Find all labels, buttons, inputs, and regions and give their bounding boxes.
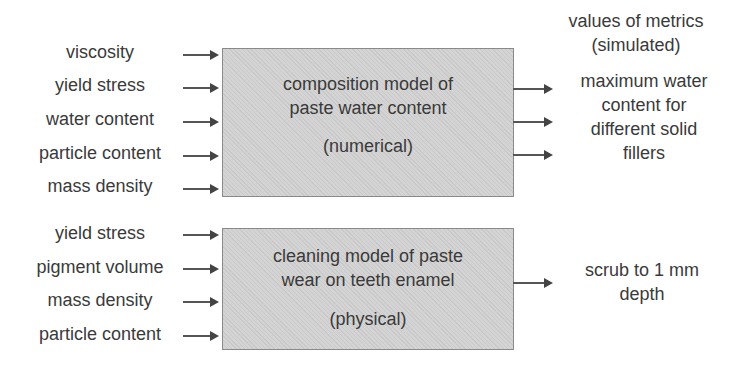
input-arrow-1	[183, 54, 217, 56]
input-label-yield-stress-2: yield stress	[0, 223, 200, 243]
input-label-pigment-volume: pigment volume	[0, 257, 200, 277]
composition-model-box: composition model of paste water content…	[222, 48, 514, 197]
input-arrow-3	[183, 121, 217, 123]
input-label-yield-stress: yield stress	[0, 75, 200, 95]
model2-output-line2: depth	[542, 283, 731, 305]
input-arrow-7	[183, 268, 217, 270]
outputs-header-line1: values of metrics	[536, 10, 731, 32]
model1-type: (numerical)	[223, 135, 513, 158]
input-arrow-2	[183, 87, 217, 89]
model1-output-line3: different solid	[544, 118, 731, 140]
input-label-water-content: water content	[0, 109, 200, 129]
input-label-mass-density: mass density	[0, 176, 200, 196]
model1-title-line1: composition model of	[223, 73, 513, 96]
model2-type: (physical)	[223, 308, 513, 331]
input-arrow-5	[183, 188, 217, 190]
model1-output-line2: content for	[544, 94, 731, 116]
model1-output-line4: fillers	[544, 142, 731, 164]
input-arrow-9	[183, 335, 217, 337]
input-label-viscosity: viscosity	[0, 42, 200, 62]
outputs-header-line2: (simulated)	[536, 34, 731, 56]
model2-title-line2: wear on teeth enamel	[223, 269, 513, 292]
model2-title-line1: cleaning model of paste	[223, 245, 513, 268]
input-arrow-8	[183, 301, 217, 303]
input-label-particle-content-2: particle content	[0, 324, 200, 344]
input-label-mass-density-2: mass density	[0, 290, 200, 310]
model1-output-line1: maximum water	[544, 70, 731, 92]
input-arrow-6	[183, 234, 217, 236]
input-label-particle-content: particle content	[0, 143, 200, 163]
model1-title-line2: paste water content	[223, 97, 513, 120]
model2-output-line1: scrub to 1 mm	[542, 259, 731, 281]
cleaning-model-box: cleaning model of paste wear on teeth en…	[222, 228, 514, 350]
input-arrow-4	[183, 155, 217, 157]
